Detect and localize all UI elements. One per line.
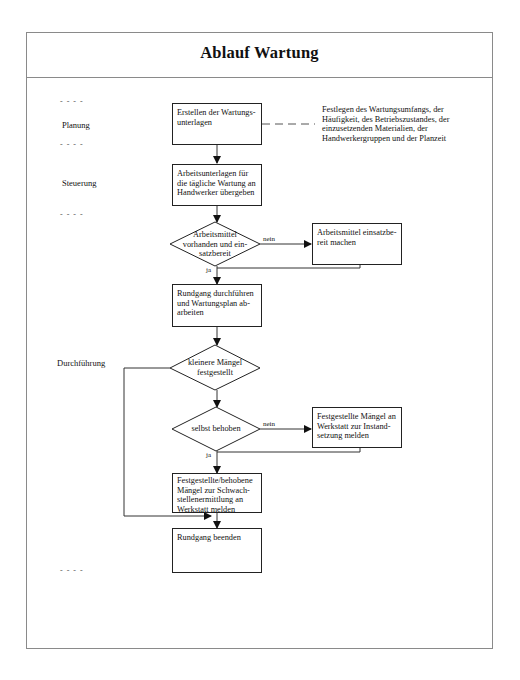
phase-label-steuerung: Steuerung bbox=[62, 178, 96, 188]
decision-maengel-label: kleinere Mängel festgestellt bbox=[170, 358, 260, 377]
process-erstellen-wartungsunterlagen: Erstellen der Wartungs- unterlagen bbox=[172, 103, 262, 145]
process-rundgang-beenden: Rundgang beenden bbox=[172, 528, 262, 573]
phase-separator: - - - - bbox=[60, 140, 84, 149]
planning-annotation: Festlegen des Wartungsumfangs, der Häufi… bbox=[322, 105, 449, 143]
phase-separator: - - - - bbox=[60, 566, 84, 575]
edge-label-ja: ja bbox=[206, 266, 211, 274]
phase-label-durchfuehrung: Durchführung bbox=[57, 358, 105, 368]
phase-separator: - - - - bbox=[60, 210, 84, 219]
phase-separator: - - - - bbox=[60, 97, 84, 106]
process-rundgang-durchfuehren: Rundgang durchführen und Wartungsplan ab… bbox=[172, 284, 262, 327]
process-arbeitsunterlagen-uebergeben: Arbeitsunterlagen für die tägliche Wartu… bbox=[172, 164, 262, 206]
process-arbeitsmittel-einsatzbereit: Arbeitsmittel einsatzbe- reit machen bbox=[312, 223, 402, 265]
decision-arbeitsmittel-label: Arbeitsmittel vorhanden und ein- satzber… bbox=[170, 230, 260, 259]
edge-label-nein: nein bbox=[263, 235, 275, 243]
edge-label-nein: nein bbox=[263, 420, 275, 428]
decision-behoben-label: selbst behoben bbox=[172, 424, 260, 434]
edge-label-ja: ja bbox=[206, 451, 211, 459]
phase-label-planung: Planung bbox=[62, 120, 90, 130]
process-maengel-instandsetzung: Festgestellte Mängel an Werkstatt zur In… bbox=[312, 407, 402, 448]
process-maengel-schwachstellen: Festgestellte/behobene Mängel zur Schwac… bbox=[172, 473, 262, 513]
